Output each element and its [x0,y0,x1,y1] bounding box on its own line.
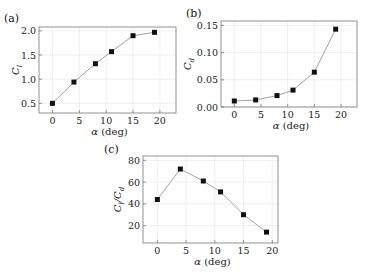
x-tick-label: 15 [237,245,249,256]
y-tick-label: 2.0 [21,25,36,36]
data-point-marker [155,197,160,202]
x-axis-ticks: 05101520 [154,240,278,256]
data-point-marker [312,70,317,75]
data-point-marker [50,101,55,106]
series-line [234,29,335,101]
x-axis-label: α (deg) [194,256,231,267]
y-tick-label: 0.15 [197,20,218,31]
x-tick-label: 10 [209,245,221,256]
data-point-marker [152,30,157,35]
y-tick-label: 0.5 [21,98,36,109]
y-tick-label: 20 [128,220,140,231]
series-markers [155,167,269,235]
x-axis-ticks: 05101520 [49,110,166,126]
x-axis-ticks: 05101520 [231,104,347,120]
x-tick-label: 0 [231,109,237,120]
plot-frame [143,156,278,243]
grid-lines [221,21,357,107]
panel-label-c: (c) [104,143,119,156]
data-point-marker [232,99,237,104]
data-point-marker [218,189,223,194]
x-axis-label: α (deg) [273,120,310,131]
y-axis-ticks: 0.000.050.100.15 [197,20,224,113]
data-point-marker [109,49,114,54]
data-point-marker [291,88,296,93]
data-point-marker [275,93,280,98]
y-tick-label: 40 [128,198,140,209]
plot-frame [221,21,357,107]
x-tick-label: 20 [266,245,278,256]
series-markers [232,27,338,104]
y-tick-label: 0.00 [197,102,218,113]
data-point-marker [131,33,136,38]
series-line [52,32,154,103]
x-tick-label: 10 [100,115,112,126]
y-tick-label: 80 [128,155,140,166]
chart-panel-c: 0510152020406080α (deg)Cl/Cd(c) [104,143,278,267]
data-point-marker [71,80,76,85]
y-tick-label: 1.5 [21,50,36,61]
x-axis-label: α (deg) [91,126,128,137]
grid-lines [143,156,278,243]
x-tick-label: 5 [258,109,264,120]
x-tick-label: 0 [49,115,55,126]
chart-panel-a: 051015200.51.01.52.0α (deg)Cl(a) [4,12,176,137]
data-point-marker [93,61,98,66]
data-point-marker [178,167,183,172]
x-tick-label: 5 [183,245,189,256]
data-point-marker [264,230,269,235]
y-tick-label: 0.10 [197,47,218,58]
figure: 051015200.51.01.52.0α (deg)Cl(a)05101520… [0,0,367,272]
y-axis-label: Cd [182,57,196,70]
y-tick-label: 60 [128,177,140,188]
series-line [157,169,266,232]
x-tick-label: 20 [335,109,347,120]
x-tick-label: 15 [308,109,320,120]
chart-panel-b: 051015200.000.050.100.15α (deg)Cd(b) [182,7,357,131]
x-tick-label: 15 [127,115,139,126]
x-tick-label: 0 [154,245,160,256]
x-tick-label: 20 [154,115,166,126]
data-point-marker [333,27,338,32]
x-tick-label: 5 [76,115,82,126]
y-tick-label: 1.0 [21,74,36,85]
grid-lines [39,27,176,113]
panel-label-a: (a) [4,12,19,25]
series-markers [50,30,157,106]
panel-label-b: (b) [186,7,202,20]
data-point-marker [201,179,206,184]
plot-frame [39,27,176,113]
data-point-marker [241,212,246,217]
data-point-marker [253,97,258,102]
y-tick-label: 0.05 [197,74,218,85]
y-axis-label: Cl/Cd [112,186,126,212]
x-tick-label: 10 [282,109,294,120]
